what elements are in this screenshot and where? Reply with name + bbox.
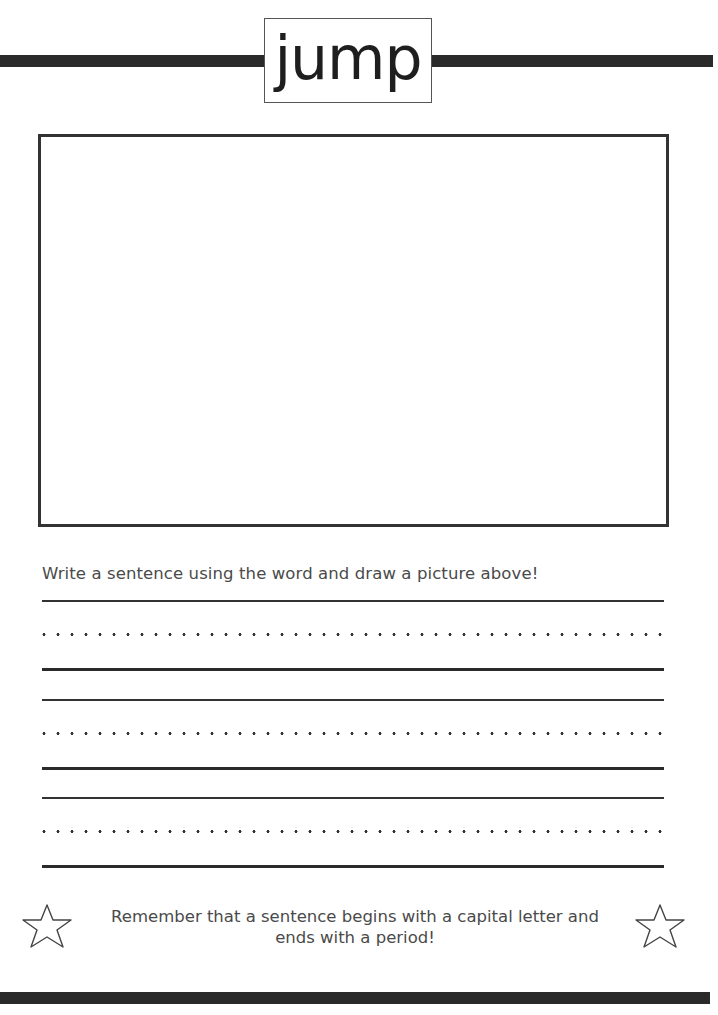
writing-line-midline-dotted [42, 633, 666, 636]
footer-bar [0, 992, 710, 1004]
writing-line-top [42, 600, 664, 602]
reminder-line-1: Remember that a sentence begins with a c… [80, 906, 630, 927]
star-outline-icon [21, 903, 73, 949]
writing-line-top [42, 797, 664, 799]
writing-line-midline-dotted [42, 732, 666, 735]
writing-line-baseline [42, 767, 664, 770]
vocabulary-word: jump [274, 28, 421, 88]
writing-line-baseline [42, 668, 664, 671]
writing-line-midline-dotted [42, 830, 666, 833]
vocabulary-word-box: jump [264, 18, 432, 103]
header-bar-left [0, 55, 265, 67]
instruction-text: Write a sentence using the word and draw… [42, 564, 538, 583]
star-outline-icon [634, 903, 686, 949]
header-bar-right [431, 55, 713, 67]
writing-line-top [42, 699, 664, 701]
reminder-text: Remember that a sentence begins with a c… [80, 906, 630, 948]
writing-line-baseline [42, 865, 664, 868]
reminder-line-2: ends with a period! [80, 927, 630, 948]
drawing-area[interactable] [38, 134, 669, 527]
